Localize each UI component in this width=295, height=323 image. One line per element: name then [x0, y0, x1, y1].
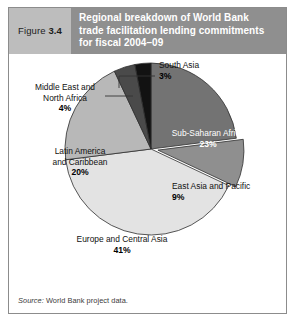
- pie-label-ssa-value: 23%: [159, 139, 257, 150]
- pie-label-eca-line-1: Europe and Central Asia: [57, 234, 187, 245]
- figure-header: Figure 3.4 Regional breakdown of World B…: [9, 8, 286, 54]
- pie-label-eap-value: 9%: [172, 192, 272, 203]
- pie-label-south-asia-value: 3%: [159, 71, 231, 82]
- source-note: Source: World Bank project data.: [18, 296, 128, 305]
- pie-label-middle-east-and-north-africa: Middle East and North Africa 4%: [17, 82, 113, 114]
- figure-number-prefix: Figure: [18, 25, 46, 36]
- figure-container: Figure 3.4 Regional breakdown of World B…: [0, 0, 295, 323]
- pie-label-south-asia-line-1: South Asia: [159, 60, 231, 71]
- pie-label-lac-line-1: Latin America: [37, 146, 123, 157]
- pie-label-latin-america-and-caribbean: Latin America and Caribbean 20%: [37, 146, 123, 178]
- pie-label-sub-saharan-africa: Sub-Saharan Africa 23%: [159, 128, 257, 149]
- figure-frame: Figure 3.4 Regional breakdown of World B…: [8, 7, 287, 314]
- pie-label-mena-line-2: North Africa: [17, 93, 113, 104]
- pie-label-south-asia: South Asia 3%: [159, 60, 231, 81]
- pie-label-eap-line-1: East Asia and Pacific: [172, 181, 272, 192]
- pie-label-lac-line-2: and Caribbean: [37, 157, 123, 168]
- figure-number-value: 3.4: [48, 25, 62, 36]
- figure-title-line-3: for fiscal 2004–09: [79, 37, 280, 49]
- pie-label-lac-value: 20%: [37, 167, 123, 178]
- figure-number-text: Figure 3.4: [18, 25, 62, 36]
- source-note-prefix: Source:: [18, 296, 44, 305]
- pie-label-eca-value: 41%: [57, 245, 187, 256]
- pie-label-east-asia-and-pacific: East Asia and Pacific 9%: [172, 181, 272, 202]
- figure-title-line-1: Regional breakdown of World Bank: [79, 12, 280, 24]
- figure-title-line-2: trade facilitation lending commitments: [79, 25, 280, 37]
- pie-label-mena-value: 4%: [17, 103, 113, 114]
- pie-label-mena-line-1: Middle East and: [17, 82, 113, 93]
- figure-title-cell: Regional breakdown of World Bank trade f…: [71, 8, 286, 54]
- figure-number-cell: Figure 3.4: [9, 8, 71, 54]
- pie-label-ssa-line-1: Sub-Saharan Africa: [159, 128, 257, 139]
- source-note-text: World Bank project data.: [46, 296, 128, 305]
- pie-label-europe-and-central-asia: Europe and Central Asia 41%: [57, 234, 187, 255]
- pie-chart: South Asia 3% Middle East and North Afri…: [9, 54, 286, 291]
